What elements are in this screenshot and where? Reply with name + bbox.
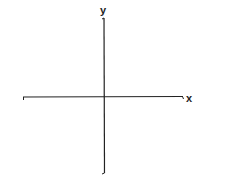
x-axis bbox=[23, 97, 184, 101]
x-axis-label: x bbox=[186, 92, 193, 104]
y-axis-label: y bbox=[100, 4, 107, 16]
y-axis bbox=[102, 18, 105, 174]
coordinate-axes: y x bbox=[0, 0, 237, 185]
